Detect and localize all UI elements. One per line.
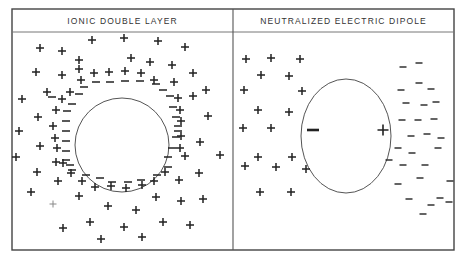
plus-charge-icon <box>32 68 40 76</box>
plus-charge-icon <box>50 201 57 208</box>
plus-charge-icon <box>175 176 183 184</box>
plus-charge-icon <box>122 184 130 192</box>
plus-charge-icon <box>121 67 129 75</box>
plus-charge-icon <box>58 95 66 103</box>
plus-charge-icon <box>12 153 20 161</box>
plus-charge-icon <box>181 152 189 160</box>
panel-title-ionic-double-layer: IONIC DOUBLE LAYER <box>12 12 233 30</box>
plus-charge-icon <box>58 47 66 55</box>
plus-charge-icon <box>189 69 197 77</box>
plus-charge-icon <box>54 177 62 185</box>
dipole-circle <box>301 79 391 193</box>
plus-charge-icon <box>59 224 67 232</box>
plus-charge-icon <box>150 177 158 185</box>
plus-charge-icon <box>254 106 262 114</box>
plus-charge-icon <box>34 113 42 121</box>
plus-charge-icon <box>204 112 212 120</box>
plus-charge-icon <box>36 142 44 150</box>
particle-circle <box>75 98 169 192</box>
plus-charge-icon <box>33 168 41 176</box>
plus-charge-icon <box>216 151 224 159</box>
plus-charge-icon <box>152 193 160 201</box>
plus-charge-icon <box>241 162 249 170</box>
plus-charge-icon <box>242 55 250 63</box>
plus-charge-icon <box>146 58 154 66</box>
plus-charge-icon <box>186 221 194 229</box>
plus-charge-icon <box>105 68 113 76</box>
plus-charge-icon <box>52 106 60 114</box>
plus-charge-icon <box>174 94 182 102</box>
plus-charge-icon <box>196 138 204 146</box>
neutralized-dipole-panel <box>239 54 454 214</box>
plus-charge-icon <box>137 69 145 77</box>
plus-charge-icon <box>267 54 275 62</box>
plus-charge-icon <box>127 54 135 62</box>
panel-title-neutralized-dipole: NEUTRALIZED ELECTRIC DIPOLE <box>233 12 454 30</box>
plus-charge-icon <box>132 206 140 214</box>
plus-charge-icon <box>15 127 23 135</box>
plus-charge-icon <box>257 71 265 79</box>
plus-charge-icon <box>176 144 184 152</box>
plus-charge-icon <box>120 223 128 231</box>
plus-charge-icon <box>91 183 99 191</box>
plus-charge-icon <box>66 88 74 96</box>
plus-charge-icon <box>104 202 112 210</box>
figure-svg <box>0 0 463 260</box>
plus-charge-icon <box>298 87 306 95</box>
plus-charge-icon <box>75 56 83 64</box>
plus-charge-icon <box>267 124 275 132</box>
plus-charge-icon <box>138 181 146 189</box>
plus-charge-icon <box>86 218 94 226</box>
plus-charge-icon <box>296 55 304 63</box>
plus-charge-icon <box>239 124 247 132</box>
plus-charge-icon <box>378 125 389 136</box>
plus-charge-icon <box>88 36 96 44</box>
plus-charge-icon <box>181 43 189 51</box>
plus-charge-icon <box>199 195 207 203</box>
plus-charge-icon <box>58 71 66 79</box>
plus-charge-icon <box>27 188 35 196</box>
plus-charge-icon <box>168 61 176 69</box>
plus-charge-icon <box>177 117 185 125</box>
plus-charge-icon <box>78 177 86 185</box>
plus-charge-icon <box>90 69 98 77</box>
plus-charge-icon <box>75 65 83 73</box>
plus-charge-icon <box>302 165 310 173</box>
plus-charge-icon <box>53 144 61 152</box>
plus-charge-icon <box>272 163 280 171</box>
plus-charge-icon <box>75 192 83 200</box>
plus-charge-icon <box>150 76 158 84</box>
plus-charge-icon <box>285 108 293 116</box>
plus-charge-icon <box>254 153 262 161</box>
plus-charge-icon <box>107 182 115 190</box>
plus-charge-icon <box>49 122 57 130</box>
plus-charge-icon <box>51 134 59 142</box>
plus-charge-icon <box>43 88 51 96</box>
plus-charge-icon <box>159 218 167 226</box>
plus-charge-icon <box>177 132 185 140</box>
plus-charge-icon <box>36 44 44 52</box>
plus-charge-icon <box>256 188 264 196</box>
plus-charge-icon <box>189 92 197 100</box>
plus-charge-icon <box>138 233 146 241</box>
plus-charge-icon <box>170 78 178 86</box>
plus-charge-icon <box>288 153 296 161</box>
plus-charge-icon <box>120 34 128 42</box>
plus-charge-icon <box>195 169 203 177</box>
plus-charge-icon <box>77 76 85 84</box>
plus-charge-icon <box>52 158 60 166</box>
plus-charge-icon <box>97 235 105 243</box>
plus-charge-icon <box>202 86 210 94</box>
plus-charge-icon <box>176 106 184 114</box>
plus-charge-icon <box>240 86 248 94</box>
plus-charge-icon <box>287 188 295 196</box>
plus-charge-icon <box>177 197 185 205</box>
plus-charge-icon <box>285 72 293 80</box>
ionic-double-layer-panel <box>12 34 224 243</box>
plus-charge-icon <box>18 95 26 103</box>
plus-charge-icon <box>154 37 162 45</box>
